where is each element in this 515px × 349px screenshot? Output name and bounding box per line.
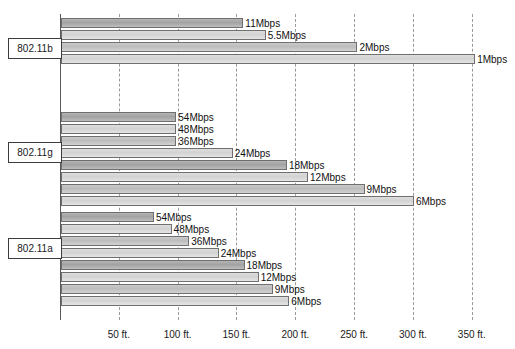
bar <box>61 284 273 294</box>
bar-value-label: 6Mbps <box>416 197 446 207</box>
bar-value-label: 36Mbps <box>178 137 214 147</box>
bar <box>61 18 243 28</box>
bar-value-label: 12Mbps <box>310 173 346 183</box>
x-tick-label: 250 ft. <box>340 330 368 340</box>
bar <box>61 42 357 52</box>
bar <box>61 272 259 282</box>
bar <box>61 260 245 270</box>
x-tick-label: 200 ft. <box>281 330 309 340</box>
x-tick-label: 300 ft. <box>399 330 427 340</box>
bar <box>61 196 414 206</box>
bar-value-label: 36Mbps <box>191 237 227 247</box>
bar-value-label: 9Mbps <box>275 285 305 295</box>
x-tick-label: 150 ft. <box>223 330 251 340</box>
x-tick-label: 100 ft. <box>164 330 192 340</box>
bar <box>61 212 154 222</box>
bar <box>61 248 219 258</box>
bar-value-label: 1Mbps <box>477 55 507 65</box>
bar-value-label: 48Mbps <box>178 125 214 135</box>
x-tick-label: 50 ft. <box>108 330 130 340</box>
bar-value-label: 2Mbps <box>359 43 389 53</box>
bar <box>61 54 475 64</box>
wireless-range-chart: 11Mbps5.5Mbps2Mbps1Mbps54Mbps48Mbps36Mbp… <box>0 0 515 349</box>
bar-value-label: 24Mbps <box>235 149 271 159</box>
bar-value-label: 11Mbps <box>245 19 280 29</box>
bar <box>61 136 176 146</box>
x-tick-label: 350 ft. <box>458 330 486 340</box>
bar <box>61 224 172 234</box>
plot-area: 11Mbps5.5Mbps2Mbps1Mbps54Mbps48Mbps36Mbp… <box>0 0 515 349</box>
bar-value-label: 54Mbps <box>178 113 214 123</box>
bar <box>61 112 176 122</box>
bar <box>61 148 233 158</box>
group-label-802-11b: 802.11b <box>8 38 62 59</box>
bar <box>61 236 189 246</box>
bar-value-label: 18Mbps <box>289 161 325 171</box>
bar <box>61 160 287 170</box>
group-label-802-11g: 802.11g <box>8 142 62 163</box>
bar-value-label: 48Mbps <box>174 225 210 235</box>
bar-value-label: 24Mbps <box>221 249 257 259</box>
bar <box>61 184 365 194</box>
bar-value-label: 9Mbps <box>367 185 397 195</box>
bar-value-label: 6Mbps <box>291 297 321 307</box>
bar <box>61 124 176 134</box>
bar-value-label: 54Mbps <box>156 213 192 223</box>
bar <box>61 30 266 40</box>
bar-value-label: 18Mbps <box>247 261 283 271</box>
group-label-802-11a: 802.11a <box>8 238 62 259</box>
bar <box>61 296 289 306</box>
bar-value-label: 12Mbps <box>261 273 297 283</box>
bar <box>61 172 308 182</box>
bar-value-label: 5.5Mbps <box>268 31 306 41</box>
